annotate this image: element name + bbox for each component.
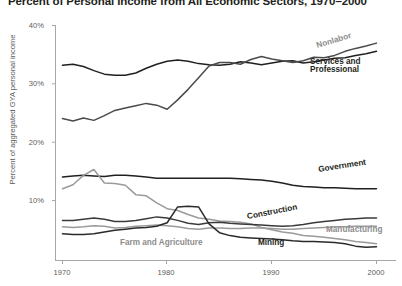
- series-label-manufacturing: Manufacturing: [326, 226, 382, 234]
- series-label-farm: Farm and Agriculture: [120, 239, 203, 247]
- series-label-services: Services and Professional: [310, 58, 361, 74]
- series-line-government: [63, 175, 377, 188]
- chart-figure: Percent of Personal Income from All Econ…: [0, 0, 402, 286]
- series-line-nonlabor: [63, 43, 377, 121]
- series-label-mining: Mining: [258, 239, 284, 247]
- series-label-services-line2: Professional: [310, 66, 361, 74]
